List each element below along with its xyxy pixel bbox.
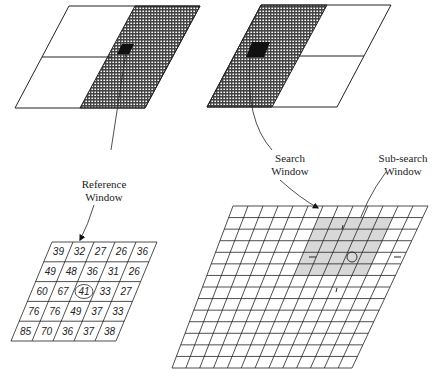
reference-cell: 36 <box>62 326 74 337</box>
reference-cell: 41 <box>78 286 89 297</box>
reference-window-label: Reference Window <box>68 178 140 204</box>
reference-cell: 49 <box>45 266 57 277</box>
reference-cell: 76 <box>28 306 40 317</box>
sub-search-window <box>294 218 393 276</box>
reference-cell: 37 <box>83 326 95 337</box>
reference-arrow-lower <box>80 205 94 240</box>
reference-cell: 70 <box>41 326 53 337</box>
reference-cell: 32 <box>74 246 86 257</box>
bottom-marker <box>336 288 337 292</box>
reference-cell: 36 <box>87 266 99 277</box>
reference-cell: 36 <box>137 246 149 257</box>
reference-cell: 26 <box>115 246 128 257</box>
reference-cell: 37 <box>91 306 103 317</box>
reference-cell: 76 <box>49 306 61 317</box>
reference-cell: 49 <box>70 306 82 317</box>
reference-cell: 27 <box>119 286 132 297</box>
reference-cell: 85 <box>20 326 32 337</box>
reference-cell: 33 <box>112 306 124 317</box>
reference-cell: 60 <box>36 286 48 297</box>
sub-search-window-label: Sub-search Window <box>370 152 436 178</box>
search-arrow-lower <box>280 180 318 208</box>
reference-cell: 39 <box>53 246 65 257</box>
reference-cell: 27 <box>94 246 107 257</box>
motion-estimation-diagram: 3932272636494836312660674133277676493733… <box>0 0 437 376</box>
reference-block-grid: 3932272636494836312660674133277676493733… <box>11 242 157 341</box>
search-frame <box>207 5 391 107</box>
reference-cell: 31 <box>108 266 119 277</box>
reference-cell: 67 <box>57 286 69 297</box>
search-window-label: Search Window <box>260 152 320 178</box>
reference-frame <box>15 6 200 108</box>
reference-cell: 38 <box>104 326 116 337</box>
reference-cell: 48 <box>66 266 78 277</box>
reference-cell: 33 <box>99 286 111 297</box>
search-window-grid <box>172 206 428 368</box>
reference-cell: 26 <box>128 266 141 277</box>
